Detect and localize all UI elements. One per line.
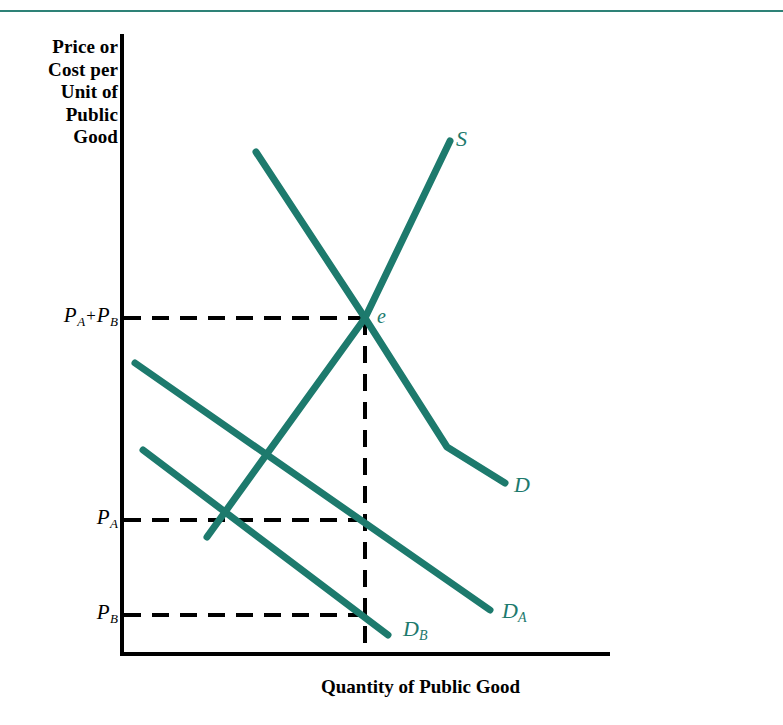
- curve-label-demand-a-base: D: [502, 598, 518, 623]
- tick-p-a-base: P: [97, 505, 110, 529]
- tick-p-sum-base: P: [64, 303, 77, 327]
- tick-label-p-b: PB: [97, 600, 118, 627]
- curve-label-demand-total: D: [514, 472, 530, 498]
- tick-p-sum-base2: P: [97, 303, 110, 327]
- y-axis-label: Price or Cost per Unit of Public Good: [18, 36, 118, 149]
- curve-supply: [207, 141, 450, 537]
- curve-label-supply-base: S: [456, 126, 467, 151]
- x-axis-label: Quantity of Public Good: [0, 676, 783, 698]
- curve-label-demand-a: DA: [502, 598, 526, 626]
- tick-p-sum-sub-a: A: [77, 314, 85, 329]
- figure-container: Price or Cost per Unit of Public Good Qu…: [0, 0, 783, 725]
- curve-label-demand-b-sub: B: [419, 628, 428, 643]
- curve-demand-b: [143, 450, 388, 635]
- curve-label-demand-total-base: D: [514, 472, 530, 497]
- tick-p-a-sub: A: [110, 516, 118, 531]
- tick-label-p-a: PA: [97, 505, 118, 532]
- tick-label-p-sum: PA+PB: [64, 303, 118, 330]
- tick-p-b-base: P: [97, 600, 110, 624]
- point-label-equilibrium: e: [377, 305, 386, 328]
- curve-label-demand-b: DB: [403, 616, 427, 644]
- curve-label-demand-a-sub: A: [518, 610, 527, 625]
- tick-p-sum-plus: +: [85, 306, 97, 325]
- curve-label-demand-b-base: D: [403, 616, 419, 641]
- tick-p-sum-sub-b: B: [110, 314, 118, 329]
- tick-p-b-sub: B: [110, 611, 118, 626]
- curve-label-supply: S: [456, 126, 467, 152]
